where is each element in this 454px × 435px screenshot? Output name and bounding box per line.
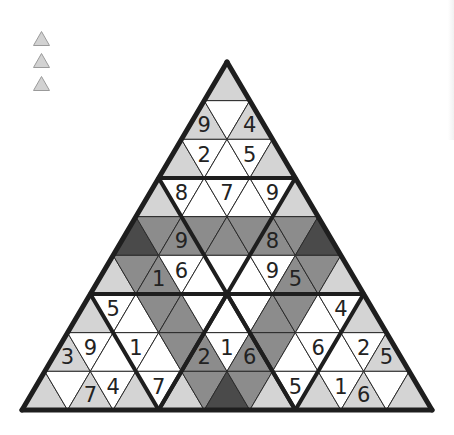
triangle-sudoku-board: 942587998169554391216625747516 xyxy=(0,0,454,435)
cell-digit: 6 xyxy=(311,336,324,360)
puzzle-cell[interactable] xyxy=(204,62,250,101)
cell-digit: 2 xyxy=(198,143,211,167)
cell-digit: 1 xyxy=(152,267,165,291)
cell-digit: 5 xyxy=(380,345,393,369)
cell-digit: 5 xyxy=(243,143,256,167)
cell-digit: 7 xyxy=(220,181,233,205)
cell-digit: 9 xyxy=(175,229,188,253)
cell-digit: 7 xyxy=(152,375,165,399)
cell-digit: 6 xyxy=(243,345,256,369)
cell-digit: 6 xyxy=(175,259,188,283)
cell-digit: 1 xyxy=(129,336,142,360)
cell-digit: 9 xyxy=(266,259,279,283)
cell-digit: 1 xyxy=(220,336,233,360)
cell-digit: 8 xyxy=(175,181,188,205)
cell-digit: 5 xyxy=(289,267,302,291)
cell-digit: 4 xyxy=(243,113,256,137)
cell-digit: 5 xyxy=(106,297,119,321)
cell-digit: 9 xyxy=(198,113,211,137)
cell-digit: 9 xyxy=(266,181,279,205)
cell-digit: 6 xyxy=(357,383,370,407)
cell-digit: 9 xyxy=(84,336,97,360)
cell-digit: 2 xyxy=(357,336,370,360)
cell-digit: 1 xyxy=(334,375,347,399)
cell-digit: 4 xyxy=(334,297,347,321)
cell-digit: 7 xyxy=(84,383,97,407)
cell-digit: 8 xyxy=(266,229,279,253)
cell-digit: 4 xyxy=(106,375,119,399)
cell-digit: 2 xyxy=(198,345,211,369)
cell-digit: 5 xyxy=(289,375,302,399)
cell-digit: 3 xyxy=(61,345,74,369)
